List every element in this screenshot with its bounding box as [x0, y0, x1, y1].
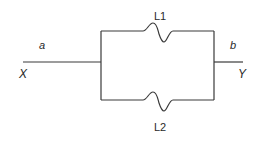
- label-x: X: [18, 67, 28, 81]
- upper-branch-l1: [101, 23, 214, 42]
- label-a: a: [39, 39, 45, 51]
- label-l2: L2: [154, 121, 166, 133]
- lower-branch-l2: [101, 92, 214, 111]
- label-y: Y: [238, 67, 247, 81]
- parallel-circuit-diagram: a X L1 b Y L2: [0, 0, 263, 142]
- label-l1: L1: [154, 10, 166, 22]
- label-b: b: [230, 39, 236, 51]
